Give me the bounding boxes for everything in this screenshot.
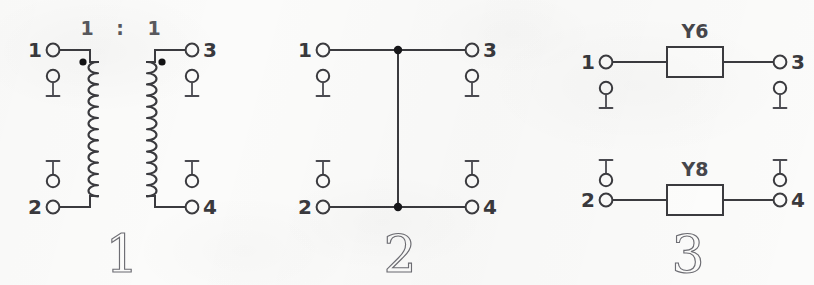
pin-label-3: 3 xyxy=(203,38,217,62)
terminal-ring-pin-4[interactable] xyxy=(774,194,787,207)
test-point-bottom-left[interactable] xyxy=(317,161,330,187)
test-point-bottom-right[interactable] xyxy=(186,161,199,187)
test-point-bottom-right[interactable] xyxy=(774,160,787,186)
terminal-ring-pin-3[interactable] xyxy=(774,56,787,69)
diagram-2-through-connection: 1 2 3 4 2 xyxy=(298,38,497,284)
pin-label-1: 1 xyxy=(28,38,42,62)
primary-winding-coil xyxy=(88,62,98,196)
component-box-y8[interactable] xyxy=(667,185,723,215)
pin-label-4: 4 xyxy=(791,188,805,212)
component-label-y8: Y8 xyxy=(681,158,709,180)
terminal-ring-pin-2[interactable] xyxy=(47,201,60,214)
figure-caption-2: 2 xyxy=(383,224,416,284)
terminal-ring-pin-4[interactable] xyxy=(186,201,199,214)
terminal-ring-pin-4[interactable] xyxy=(466,201,479,214)
component-box-y6[interactable] xyxy=(667,47,723,77)
polarity-dot-primary xyxy=(79,58,86,65)
test-point-top-right[interactable] xyxy=(774,82,787,108)
figure-caption-3: 3 xyxy=(671,224,704,284)
test-point-bottom-left[interactable] xyxy=(47,161,60,187)
pin-label-1: 1 xyxy=(298,38,312,62)
pin-label-1: 1 xyxy=(581,50,595,74)
pin-label-2: 2 xyxy=(581,188,595,212)
terminal-ring-pin-3[interactable] xyxy=(466,44,479,57)
pin-label-2: 2 xyxy=(28,195,42,219)
terminal-ring-pin-1[interactable] xyxy=(47,44,60,57)
schematic-figure: 1 : 1 xyxy=(0,0,814,285)
junction-dot-top xyxy=(394,46,402,54)
diagram-3-admittance-blocks: Y6 1 3 Y8 2 4 3 xyxy=(581,20,805,284)
test-point-top-left[interactable] xyxy=(317,70,330,96)
terminal-ring-pin-1[interactable] xyxy=(317,44,330,57)
ratio-label-primary: 1 xyxy=(80,17,93,39)
wire-pin3-to-secondary xyxy=(147,50,185,62)
junction-dot-bottom xyxy=(394,203,402,211)
terminal-ring-pin-2[interactable] xyxy=(317,201,330,214)
test-point-top-left[interactable] xyxy=(600,82,613,108)
pin-label-4: 4 xyxy=(483,195,497,219)
pin-label-2: 2 xyxy=(298,195,312,219)
schematic-canvas: 1 : 1 xyxy=(0,0,814,285)
wire-pin1-to-primary xyxy=(60,50,98,62)
terminal-ring-pin-2[interactable] xyxy=(600,194,613,207)
ratio-separator: : xyxy=(116,17,124,39)
secondary-winding-coil xyxy=(147,62,157,196)
wire-secondary-to-pin4 xyxy=(147,196,185,207)
terminal-ring-pin-3[interactable] xyxy=(186,44,199,57)
ratio-label-secondary: 1 xyxy=(147,17,160,39)
test-point-top-left[interactable] xyxy=(47,70,60,96)
polarity-dot-secondary xyxy=(158,58,165,65)
test-point-top-right[interactable] xyxy=(186,70,199,96)
test-point-bottom-left[interactable] xyxy=(600,160,613,186)
wire-primary-to-pin2 xyxy=(60,196,98,207)
pin-label-3: 3 xyxy=(483,38,497,62)
figure-caption-1: 1 xyxy=(105,224,138,284)
pin-label-3: 3 xyxy=(791,50,805,74)
terminal-ring-pin-1[interactable] xyxy=(600,56,613,69)
test-point-bottom-right[interactable] xyxy=(466,161,479,187)
pin-label-4: 4 xyxy=(203,195,217,219)
component-label-y6: Y6 xyxy=(681,20,709,42)
diagram-1-transformer: 1 : 1 xyxy=(28,17,217,284)
test-point-top-right[interactable] xyxy=(466,70,479,96)
